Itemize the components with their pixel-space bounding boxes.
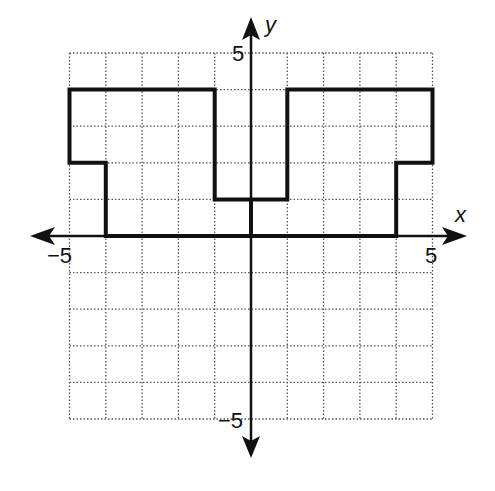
x-axis-label: x bbox=[454, 202, 467, 227]
y-tick-label-max: 5 bbox=[232, 41, 244, 66]
coordinate-plane: y x 5 −5 −5 5 bbox=[0, 0, 495, 491]
y-tick-label-min: −5 bbox=[218, 408, 243, 433]
x-tick-label-max: 5 bbox=[425, 243, 437, 268]
x-tick-label-min: −5 bbox=[47, 243, 72, 268]
y-axis-label: y bbox=[263, 12, 278, 37]
